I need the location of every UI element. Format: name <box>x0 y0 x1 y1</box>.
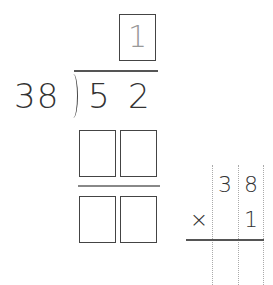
subtraction-line <box>78 185 160 187</box>
division-bar <box>74 70 158 72</box>
grid-line-3 <box>263 165 264 285</box>
dividend-digit-tens: 5 <box>88 76 111 116</box>
divisor: 38 <box>14 76 59 116</box>
multiply-sign: × <box>187 207 211 233</box>
remainder-box-ones[interactable] <box>120 196 157 243</box>
product-box-ones[interactable] <box>120 130 157 177</box>
mult-top-digit-tens: 3 <box>213 172 237 198</box>
division-bracket <box>70 74 78 118</box>
remainder-box-tens[interactable] <box>79 196 116 243</box>
quotient-box[interactable]: 1 <box>119 14 156 61</box>
dividend-digit-ones: 2 <box>128 76 151 116</box>
quotient-digit: 1 <box>120 20 155 54</box>
mult-top-digit-ones: 8 <box>239 172 263 198</box>
product-box-tens[interactable] <box>79 130 116 177</box>
mult-result-line <box>186 239 264 241</box>
mult-bottom-digit-ones: 1 <box>239 207 263 233</box>
